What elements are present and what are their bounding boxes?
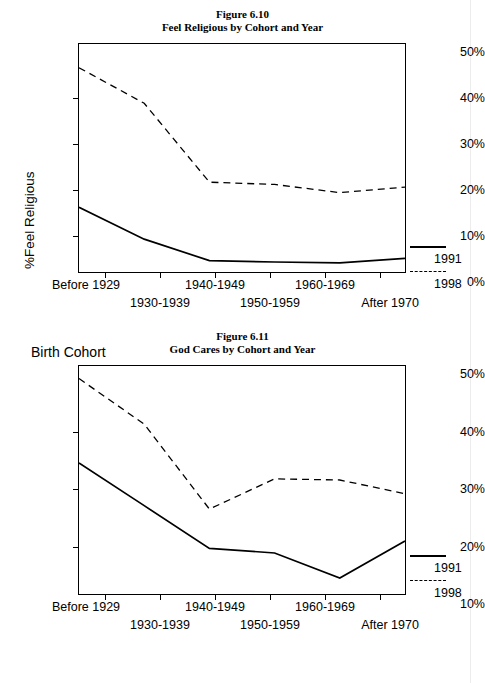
figure-6-11-series-canvas (79, 366, 405, 594)
figure-6-11-title: Figure 6.11 God Cares by Cohort and Year (0, 330, 485, 356)
figure-6-10-legend-label-1998: 1998 (434, 277, 462, 291)
legend-line-solid-icon (410, 555, 446, 557)
legend-line-solid-icon (410, 246, 446, 248)
figure-6-10-ytick-30: 30% (413, 138, 485, 150)
figure-6-11-ytick-30: 30% (413, 483, 485, 495)
figure-6-11-xlabel-1950-1959: 1950-1959 (240, 618, 300, 632)
figure-6-10-title: Figure 6.10 Feel Religious by Cohort and… (0, 8, 485, 34)
figure-6-11-xlabel-after-1970: After 1970 (361, 618, 419, 632)
figure-6-11-xlabel-1930-1939: 1930-1939 (130, 618, 190, 632)
figure-6-10-xtick-mark-5 (380, 273, 381, 278)
figure-6-11-title-line2: God Cares by Cohort and Year (60, 343, 425, 356)
figure-6-10-xlabel-after-1970: After 1970 (361, 296, 419, 310)
figure-6-10-xtick-mark-1 (160, 273, 161, 278)
figure-6-11: Figure 6.11 God Cares by Cohort and Year… (0, 330, 485, 683)
figure-6-10-legend-label-1991: 1991 (434, 252, 462, 266)
figure-6-11-plot-wrapper: % God concerns Himself with humans? 50% … (0, 356, 485, 666)
figure-6-11-series-1998 (79, 379, 405, 510)
figure-6-10-legend-row-1991: 1991 (406, 242, 484, 267)
figure-6-10-plot-wrapper: %Feel Religious 50% 40% 30% 20% 10% 0% (0, 34, 485, 330)
figure-6-10-xlabel-1960-1969: 1960-1969 (295, 278, 355, 292)
figure-6-11-legend-row-1998: 1998 (406, 576, 484, 601)
figure-6-11-xtick-mark-1 (160, 595, 161, 600)
figure-6-10-legend: 1991 1998 (406, 242, 484, 292)
figure-6-10-title-line1: Figure 6.10 (216, 8, 269, 20)
figure-6-10-legend-row-1998: 1998 (406, 267, 484, 292)
figure-6-11-series-1991 (79, 463, 405, 578)
figure-6-10: Figure 6.10 Feel Religious by Cohort and… (0, 8, 485, 338)
figure-6-10-plot-area (78, 43, 406, 273)
figure-6-10-ytick-40: 40% (413, 92, 485, 104)
figure-6-10-series-1998 (79, 68, 405, 193)
figure-6-11-xlabel-1940-1949: 1940-1949 (185, 600, 245, 614)
figure-6-10-xlabel-before-1929: Before 1929 (52, 278, 120, 292)
figure-6-10-xtick-mark-3 (270, 273, 271, 278)
figure-6-11-plot-area (78, 365, 406, 595)
figure-6-11-xtick-mark-5 (380, 595, 381, 600)
figure-6-10-ytick-50: 50% (413, 46, 485, 58)
figure-6-11-xtick-mark-3 (270, 595, 271, 600)
figure-6-11-xlabel-1960-1969: 1960-1969 (295, 600, 355, 614)
figure-6-11-legend: 1991 1998 (406, 551, 484, 601)
figure-6-11-title-line1: Figure 6.11 (216, 330, 268, 342)
figure-6-10-series-canvas (79, 44, 405, 272)
figure-6-11-ytick-50: 50% (413, 368, 485, 380)
figure-6-11-legend-row-1991: 1991 (406, 551, 484, 576)
figure-6-11-ytick-40: 40% (413, 426, 485, 438)
document-page: Figure 6.10 Feel Religious by Cohort and… (0, 0, 485, 683)
figure-6-10-y-axis-title: %Feel Religious (22, 171, 37, 269)
figure-6-10-title-line2: Feel Religious by Cohort and Year (60, 21, 425, 34)
legend-line-dashed-icon (410, 271, 446, 272)
figure-6-10-ytick-10: 10% (413, 230, 485, 242)
legend-line-dashed-icon (410, 580, 446, 581)
figure-6-10-series-1991 (79, 207, 405, 263)
figure-6-10-xlabel-1950-1959: 1950-1959 (240, 296, 300, 310)
figure-6-11-legend-label-1991: 1991 (434, 561, 462, 575)
figure-6-10-xlabel-1940-1949: 1940-1949 (185, 278, 245, 292)
figure-6-11-xlabel-before-1929: Before 1929 (52, 600, 120, 614)
figure-6-11-legend-label-1998: 1998 (434, 586, 462, 600)
figure-6-10-ytick-20: 20% (413, 184, 485, 196)
figure-6-10-xlabel-1930-1939: 1930-1939 (130, 296, 190, 310)
